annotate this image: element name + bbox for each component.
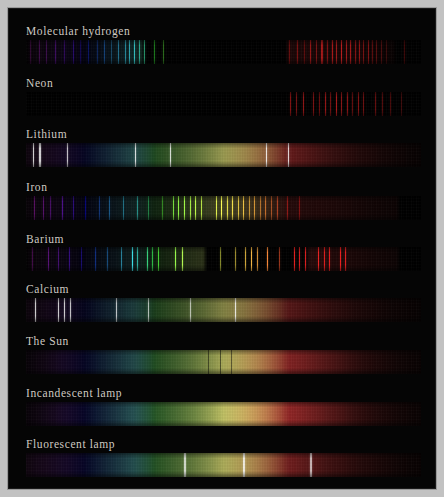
spectrum-lines (26, 40, 421, 64)
spectrum-band-incandescent-lamp (26, 402, 421, 426)
spectrum-label-calcium: Calcium (26, 283, 69, 295)
spectrum-lines (26, 92, 421, 116)
spectrum-band-lithium (26, 143, 421, 167)
spectrum-band-fluorescent-lamp (26, 453, 421, 477)
spectrum-band-calcium (26, 298, 421, 322)
spectrum-label-fluorescent-lamp: Fluorescent lamp (26, 438, 115, 450)
spectrum-label-molecular-hydrogen: Molecular hydrogen (26, 25, 130, 37)
spectrum-label-incandescent-lamp: Incandescent lamp (26, 387, 122, 399)
spectrum-band-molecular-hydrogen (26, 40, 421, 64)
spectrum-lines (26, 143, 421, 167)
spectrum-lines (26, 247, 421, 271)
spectra-panel: Molecular hydrogenNeonLithiumIronBariumC… (8, 8, 436, 489)
spectrum-band-barium (26, 247, 421, 271)
spectrum-label-iron: Iron (26, 181, 48, 193)
spectrum-label-neon: Neon (26, 77, 53, 89)
spectrum-label-barium: Barium (26, 233, 64, 245)
spectrum-lines (26, 402, 421, 426)
spectrum-label-lithium: Lithium (26, 128, 67, 140)
spectrum-lines (26, 453, 421, 477)
spectrum-lines (26, 298, 421, 322)
spectrum-band-neon (26, 92, 421, 116)
spectrum-lines (26, 196, 421, 220)
spectrum-label-the-sun: The Sun (26, 335, 69, 347)
spectrum-band-iron (26, 196, 421, 220)
spectrum-lines (26, 350, 421, 374)
spectrum-band-the-sun (26, 350, 421, 374)
spectra-plate: Molecular hydrogenNeonLithiumIronBariumC… (0, 0, 444, 497)
